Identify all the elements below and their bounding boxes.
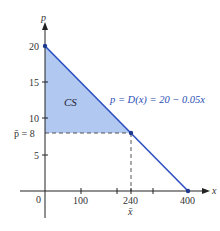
point-equilibrium: [129, 131, 133, 135]
x-axis-label: x: [211, 185, 217, 196]
x-bar-label: x̄: [127, 206, 133, 217]
y-tick-label-15: 15: [29, 77, 39, 88]
point-p-intercept: [43, 44, 47, 48]
x-tick-label-400: 400: [180, 195, 195, 206]
y-tick-label-20: 20: [29, 41, 39, 52]
y-tick-label-10: 10: [29, 113, 39, 124]
point-x-intercept: [186, 189, 190, 193]
y-tick-label-5: 5: [34, 150, 39, 161]
demand-equation-label: p = D(x) = 20 − 0.05x: [109, 94, 205, 106]
origin-label: 0: [36, 194, 41, 205]
consumer-surplus-label: CS: [64, 96, 77, 108]
x-tick-label-100: 100: [73, 195, 88, 206]
y-axis-label: p: [40, 12, 46, 23]
x-axis-arrow-icon: [202, 188, 210, 194]
y-axis-arrow-icon: [42, 22, 48, 30]
consumer-surplus-diagram: p x 20 15 10 p̄ = 8 5 0 100 240 x̄ 400 C…: [0, 0, 220, 231]
x-tick-label-240: 240: [123, 195, 138, 206]
p-bar-label: p̄ = 8: [14, 128, 35, 139]
